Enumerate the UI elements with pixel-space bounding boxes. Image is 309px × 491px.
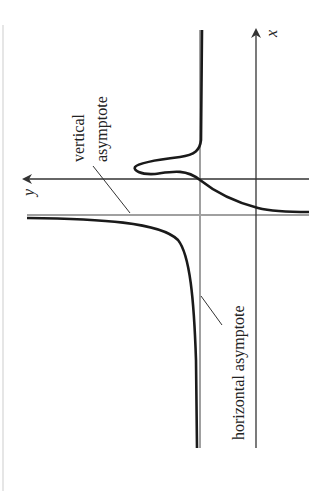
horizontal-asymptote-leader <box>201 296 222 325</box>
horizontal-asymptote-label: horizontal asymptote <box>230 305 248 440</box>
curve-branch-right <box>135 30 309 212</box>
vertical-asymptote-label-line1: vertical <box>70 113 87 162</box>
y-axis-label: y <box>20 188 38 198</box>
asymptote-diagram: x y vertical asymptote horizontal asympt… <box>0 0 309 491</box>
curve-branch-left <box>27 218 197 448</box>
x-axis-label: x <box>263 30 280 38</box>
vertical-asymptote-leader <box>93 166 130 213</box>
vertical-asymptote-label-line2: asymptote <box>93 96 111 162</box>
